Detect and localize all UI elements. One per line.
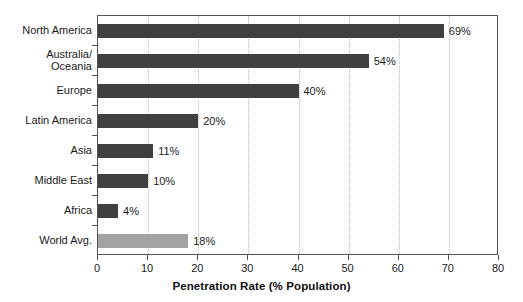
bar-value-label: 40%	[304, 86, 326, 97]
x-axis-tick-labels: 01020304050607080	[97, 262, 498, 276]
category-label: World Avg.	[0, 234, 92, 246]
bar-row[interactable]: 69%	[98, 24, 497, 38]
bar[interactable]	[98, 114, 198, 128]
x-axis-tick-label: 50	[342, 262, 354, 275]
bar-row[interactable]: 54%	[98, 54, 497, 68]
category-axis-tick	[92, 105, 97, 106]
x-axis-tick	[348, 255, 349, 260]
bar[interactable]	[98, 24, 444, 38]
x-axis-tick-label: 80	[492, 262, 504, 275]
bars-layer: 69%54%40%20%11%10%4%18%	[98, 16, 497, 254]
category-label-line: Europe	[0, 84, 92, 96]
bar-value-label: 69%	[449, 26, 471, 37]
bar-value-label: 4%	[123, 206, 139, 217]
category-axis-tick	[92, 75, 97, 76]
bar-row[interactable]: 18%	[98, 234, 497, 248]
category-axis-tick	[92, 165, 97, 166]
bar[interactable]	[98, 84, 299, 98]
x-axis-tick-label: 40	[291, 262, 303, 275]
x-axis-tick-label: 10	[141, 262, 153, 275]
category-label: Africa	[0, 204, 92, 216]
category-label: Europe	[0, 84, 92, 96]
x-axis-tick-label: 20	[191, 262, 203, 275]
category-label: Australia/Oceania	[0, 48, 92, 72]
category-label: Asia	[0, 144, 92, 156]
category-axis-tick	[92, 195, 97, 196]
bar[interactable]	[98, 144, 153, 158]
category-label-line: World Avg.	[0, 234, 92, 246]
bar-row[interactable]: 10%	[98, 174, 497, 188]
bar-value-label: 54%	[374, 56, 396, 67]
category-label: Middle East	[0, 174, 92, 186]
category-label-line: Africa	[0, 204, 92, 216]
category-axis-tick	[92, 225, 97, 226]
category-label-line: Latin America	[0, 114, 92, 126]
category-label-line: Australia/	[0, 48, 92, 60]
x-axis-title: Penetration Rate (% Population)	[0, 280, 523, 292]
x-axis-tick	[298, 255, 299, 260]
bar-row[interactable]: 40%	[98, 84, 497, 98]
bar-value-label: 10%	[153, 176, 175, 187]
x-axis-ticks	[97, 255, 498, 261]
x-axis-tick	[197, 255, 198, 260]
x-axis-tick	[498, 255, 499, 260]
bar[interactable]	[98, 234, 188, 248]
bar[interactable]	[98, 174, 148, 188]
bar-row[interactable]: 11%	[98, 144, 497, 158]
x-axis-tick-label: 30	[241, 262, 253, 275]
x-axis-tick-label: 60	[392, 262, 404, 275]
bar[interactable]	[98, 54, 369, 68]
x-axis-tick	[398, 255, 399, 260]
x-axis-tick	[147, 255, 148, 260]
plot-area: 69%54%40%20%11%10%4%18%	[97, 15, 498, 255]
x-axis-tick-label: 0	[94, 262, 100, 275]
category-label: Latin America	[0, 114, 92, 126]
category-axis-tick	[92, 135, 97, 136]
category-label-line: Middle East	[0, 174, 92, 186]
x-axis-tick-label: 70	[442, 262, 454, 275]
bar-value-label: 18%	[193, 236, 215, 247]
bar-value-label: 20%	[203, 116, 225, 127]
bar[interactable]	[98, 204, 118, 218]
bar-value-label: 11%	[158, 146, 179, 157]
category-label-line: Asia	[0, 144, 92, 156]
x-axis-tick	[247, 255, 248, 260]
category-label: North America	[0, 24, 92, 36]
x-axis-tick	[97, 255, 98, 260]
category-label-line: North America	[0, 24, 92, 36]
bar-row[interactable]: 20%	[98, 114, 497, 128]
category-axis-labels: North AmericaAustralia/OceaniaEuropeLati…	[0, 15, 92, 255]
bar-chart: 69%54%40%20%11%10%4%18% North AmericaAus…	[0, 0, 523, 302]
x-axis-tick	[448, 255, 449, 260]
category-axis-tick	[92, 45, 97, 46]
bar-row[interactable]: 4%	[98, 204, 497, 218]
category-label-line: Oceania	[0, 60, 92, 72]
